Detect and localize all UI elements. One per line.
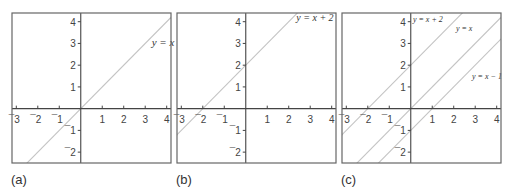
- x-tick-label: ¯1: [381, 114, 394, 125]
- equation-label: y = x: [455, 24, 473, 33]
- x-tick-label: 2: [121, 114, 127, 125]
- y-tick-label: ¯2: [229, 147, 242, 158]
- y-tick-label: 3: [70, 38, 76, 49]
- x-tick-label: 1: [99, 114, 105, 125]
- x-tick-label: 4: [494, 114, 500, 125]
- plot-c: ¯3¯2¯11234¯2¯11234y = x + 2y = xy = x − …: [342, 13, 501, 163]
- y-tick-label: ¯1: [394, 125, 407, 136]
- series-line-2: [321, 17, 513, 195]
- y-tick-label: 2: [235, 60, 241, 71]
- plot-frame: [177, 13, 336, 163]
- plot-b: ¯3¯2¯11234¯2¯11234y = x + 2: [177, 13, 336, 163]
- x-tick-label: 4: [329, 114, 335, 125]
- x-tick-label: 2: [451, 114, 457, 125]
- equation-label: y = x + 2: [412, 15, 443, 24]
- x-tick-label: ¯2: [29, 114, 42, 125]
- x-tick-label: ¯2: [194, 114, 207, 125]
- y-tick-label: 1: [400, 82, 406, 93]
- series-line-1: [321, 0, 513, 195]
- plot-frame: [12, 13, 171, 163]
- series-line-0: [0, 0, 192, 195]
- caption-a: (a): [11, 172, 27, 187]
- equation-label: y = x − 1: [471, 72, 502, 81]
- x-tick-label: 4: [164, 114, 170, 125]
- y-tick-label: ¯2: [394, 147, 407, 158]
- caption-c: (c): [341, 172, 356, 187]
- x-tick-label: 2: [286, 114, 292, 125]
- y-tick-label: 3: [235, 38, 241, 49]
- x-tick-label: ¯3: [8, 114, 21, 125]
- x-tick-label: 3: [307, 114, 313, 125]
- chart-panel-a: ¯3¯2¯11234¯2¯11234y = x: [12, 13, 171, 163]
- x-tick-label: 3: [472, 114, 478, 125]
- y-tick-label: 2: [400, 60, 406, 71]
- y-tick-label: 2: [70, 60, 76, 71]
- x-tick-label: ¯2: [359, 114, 372, 125]
- plot-frame: [342, 13, 501, 163]
- x-tick-label: ¯1: [51, 114, 64, 125]
- x-tick-label: ¯1: [216, 114, 229, 125]
- chart-panel-b: ¯3¯2¯11234¯2¯11234y = x + 2: [177, 13, 336, 163]
- plot-a: ¯3¯2¯11234¯2¯11234y = x: [12, 13, 171, 163]
- y-tick-label: 1: [235, 82, 241, 93]
- y-tick-label: ¯1: [229, 125, 242, 136]
- x-tick-label: ¯3: [338, 114, 351, 125]
- series-line-0: [156, 0, 358, 156]
- y-tick-label: 3: [400, 38, 406, 49]
- y-tick-label: 4: [235, 17, 241, 28]
- chart-panel-c: ¯3¯2¯11234¯2¯11234y = x + 2y = xy = x − …: [342, 13, 501, 163]
- y-tick-label: 1: [70, 82, 76, 93]
- y-tick-label: 4: [400, 17, 406, 28]
- y-tick-label: ¯1: [64, 125, 77, 136]
- y-tick-label: 4: [70, 17, 76, 28]
- y-tick-label: ¯2: [64, 147, 77, 158]
- x-tick-label: 1: [429, 114, 435, 125]
- caption-b: (b): [176, 172, 192, 187]
- x-tick-label: 3: [142, 114, 148, 125]
- x-tick-label: ¯3: [173, 114, 186, 125]
- x-tick-label: 1: [264, 114, 270, 125]
